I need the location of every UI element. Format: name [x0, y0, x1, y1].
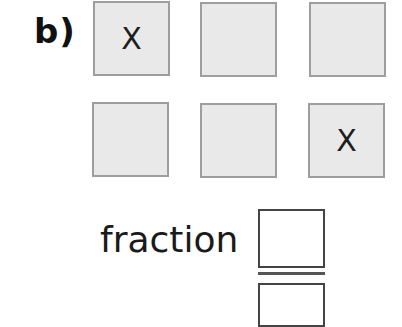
numerator-answer-box[interactable] [258, 209, 325, 268]
x-mark-icon: X [121, 24, 142, 54]
x-mark-icon: X [336, 126, 357, 156]
grid-cell-r2c1 [92, 102, 169, 177]
grid-cell-r2c3: X [308, 103, 385, 178]
fraction-bar [258, 272, 325, 275]
grid-cell-r1c3 [309, 2, 386, 77]
grid-cell-r1c1: X [93, 1, 170, 76]
grid-cell-r2c2 [200, 103, 277, 178]
grid-cell-r1c2 [200, 2, 277, 77]
denominator-answer-box[interactable] [258, 283, 325, 327]
fraction-label: fraction [100, 222, 238, 258]
question-label: b) [34, 14, 76, 48]
